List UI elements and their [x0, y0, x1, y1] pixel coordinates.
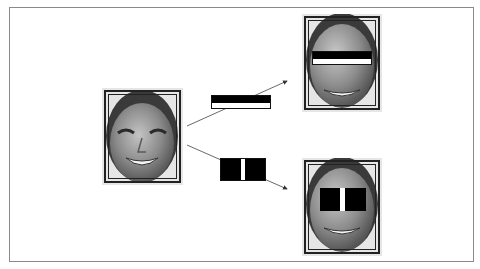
- arrows-layer: [0, 0, 480, 269]
- edge-feature-dark-region: [212, 96, 270, 103]
- edge-feature-glyph: [211, 95, 271, 109]
- line-feature-glyph: [220, 158, 266, 181]
- line-feature-light-center: [241, 159, 245, 180]
